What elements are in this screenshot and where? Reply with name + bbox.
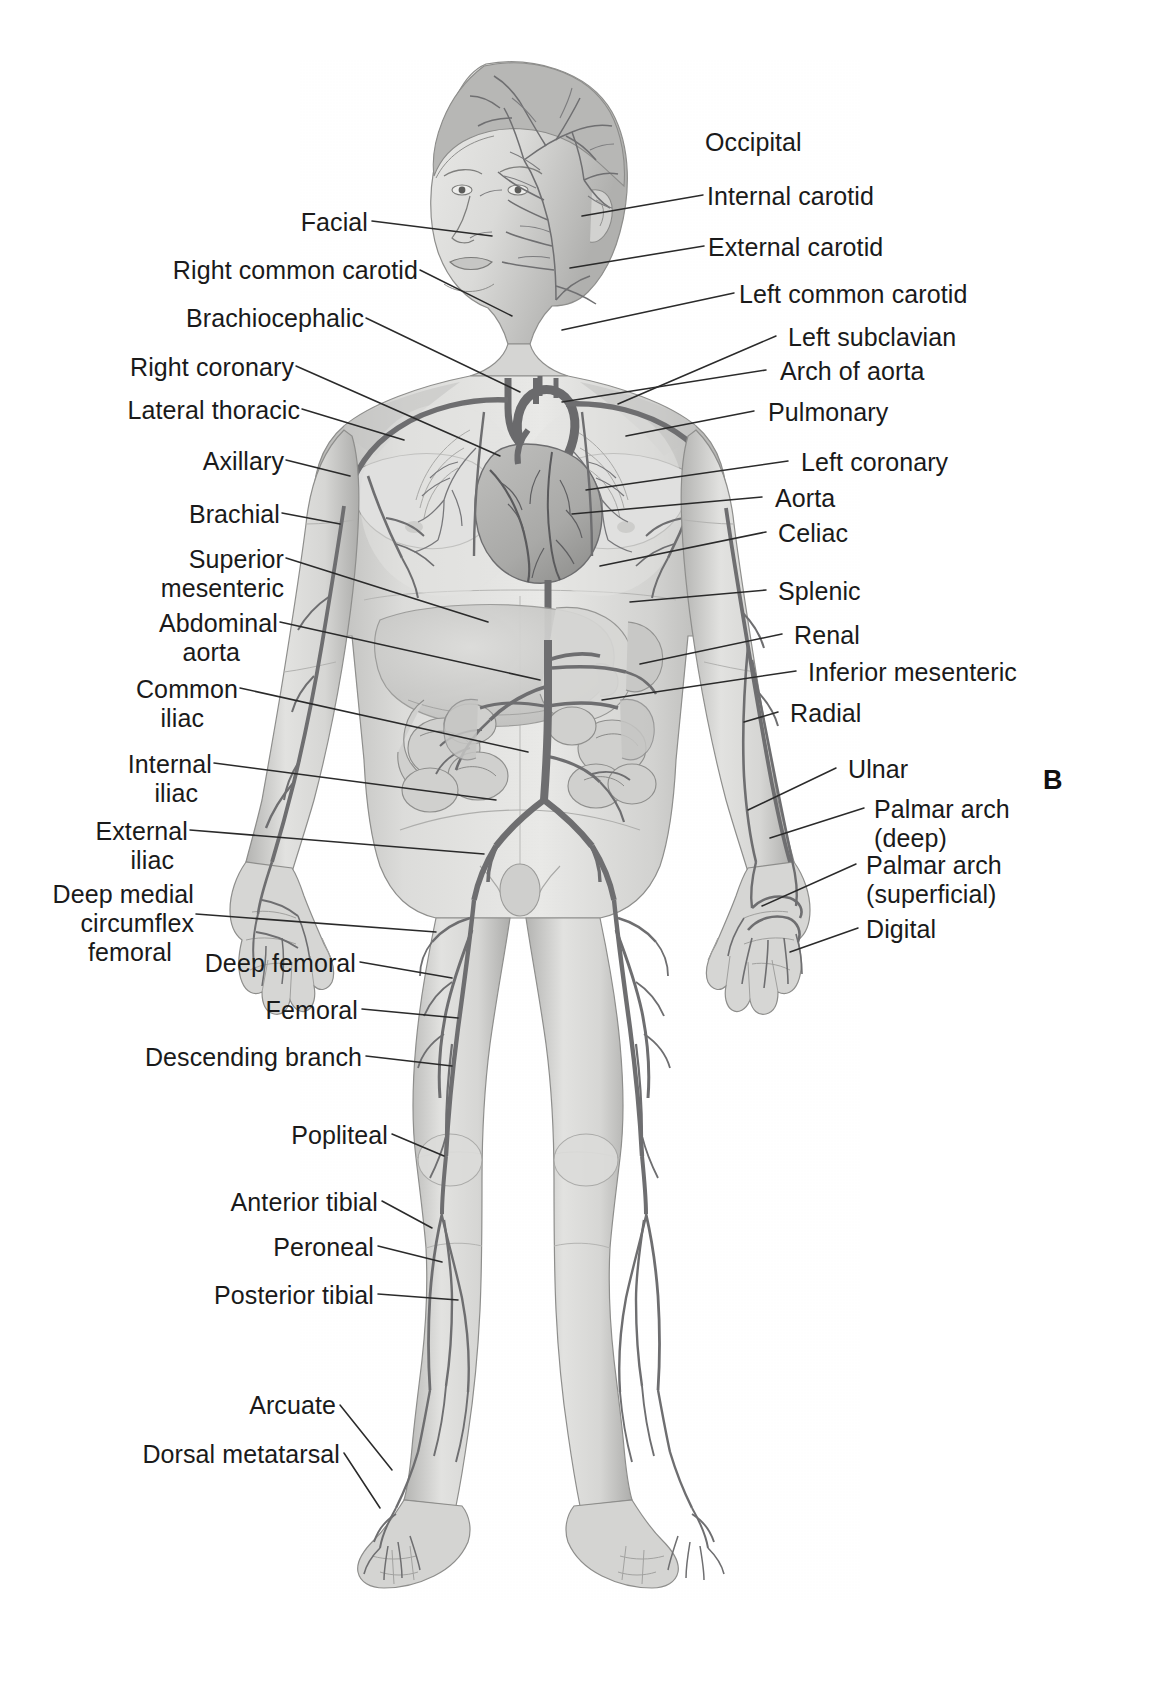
- leader-pulmonary: [626, 411, 754, 436]
- leader-left-common-carotid: [562, 293, 734, 330]
- label-text: Peroneal: [273, 1233, 374, 1261]
- label-text: Splenic: [778, 577, 861, 605]
- leader-arch-of-aorta: [562, 370, 766, 402]
- leader-right-common-carotid: [420, 270, 512, 316]
- leader-posterior-tibial: [378, 1294, 458, 1300]
- label-text: Left coronary: [801, 448, 948, 476]
- panel-letter-text: B: [1043, 765, 1063, 795]
- label-text: Descending branch: [145, 1043, 362, 1071]
- label-text: Brachiocephalic: [186, 304, 364, 332]
- label-left-coronary: Left coronary: [801, 448, 948, 477]
- label-occipital: Occipital: [705, 128, 802, 157]
- leader-splenic: [630, 590, 766, 602]
- label-lateral-thoracic: Lateral thoracic: [0, 396, 300, 425]
- leader-palmar-arch-deep: [770, 808, 864, 838]
- label-brachiocephalic: Brachiocephalic: [0, 304, 364, 333]
- label-left-subclavian: Left subclavian: [788, 323, 956, 352]
- label-text: Arch of aorta: [780, 357, 924, 385]
- label-right-common-carotid: Right common carotid: [0, 256, 418, 285]
- leader-brachiocephalic: [366, 318, 520, 392]
- leader-deep-femoral: [360, 962, 452, 978]
- label-dorsal-metatarsal: Dorsal metatarsal: [0, 1440, 340, 1469]
- label-text: Arcuate: [249, 1391, 336, 1419]
- leader-ulnar: [748, 768, 836, 810]
- label-text: Internal: [128, 750, 212, 778]
- leader-radial: [744, 712, 778, 722]
- label-text: Deep femoral: [205, 949, 356, 977]
- label-anterior-tibial: Anterior tibial: [0, 1188, 378, 1217]
- label-text: Lateral thoracic: [127, 396, 300, 424]
- label-text: Pulmonary: [768, 398, 888, 426]
- label-text: Abdominal: [159, 609, 278, 637]
- label-aorta: Aorta: [775, 484, 835, 513]
- label-pulmonary: Pulmonary: [768, 398, 888, 427]
- label-text: Dorsal metatarsal: [142, 1440, 340, 1468]
- label-text: Aorta: [775, 484, 835, 512]
- label-left-common-carotid: Left common carotid: [739, 280, 967, 309]
- label-text: Femoral: [266, 996, 358, 1024]
- label-celiac: Celiac: [778, 519, 848, 548]
- label-text: Occipital: [705, 128, 802, 156]
- label-text-line2: (deep): [874, 824, 1010, 853]
- label-text: Left common carotid: [739, 280, 967, 308]
- leader-arcuate: [340, 1405, 392, 1470]
- panel-letter-b: B: [1043, 765, 1063, 796]
- label-abdominal-aorta: Abdominal aorta: [0, 609, 278, 667]
- label-external-carotid: External carotid: [708, 233, 883, 262]
- label-text: Inferior mesenteric: [808, 658, 1017, 686]
- label-text: Facial: [301, 208, 368, 236]
- label-superior-mesenteric: Superior mesenteric: [0, 545, 284, 603]
- label-text: Axillary: [203, 447, 284, 475]
- label-palmar-arch-deep: Palmar arch (deep): [874, 795, 1010, 853]
- label-text-line2: aorta: [0, 638, 240, 667]
- label-text: Left subclavian: [788, 323, 956, 351]
- leader-right-coronary: [296, 366, 500, 456]
- label-digital: Digital: [866, 915, 936, 944]
- leader-abdominal-aorta: [280, 622, 540, 680]
- leader-internal-iliac: [214, 763, 496, 800]
- leader-left-coronary: [586, 461, 788, 490]
- label-arch-of-aorta: Arch of aorta: [780, 357, 924, 386]
- label-text: Anterior tibial: [231, 1188, 378, 1216]
- label-posterior-tibial: Posterior tibial: [0, 1281, 374, 1310]
- leader-digital: [790, 928, 858, 952]
- leader-common-iliac: [240, 688, 528, 752]
- label-text: Popliteal: [291, 1121, 388, 1149]
- label-text: Internal carotid: [707, 182, 874, 210]
- label-text: Deep medial: [53, 880, 194, 908]
- label-text-line2: (superficial): [866, 880, 1002, 909]
- label-internal-carotid: Internal carotid: [707, 182, 874, 211]
- label-text: Ulnar: [848, 755, 908, 783]
- label-text: External carotid: [708, 233, 883, 261]
- label-text: Superior: [189, 545, 284, 573]
- label-text: Posterior tibial: [214, 1281, 374, 1309]
- label-facial: Facial: [0, 208, 368, 237]
- label-peroneal: Peroneal: [0, 1233, 374, 1262]
- label-text: Palmar arch: [866, 851, 1002, 879]
- label-text-line2: circumflex: [0, 909, 194, 938]
- leader-inferior-mesenteric: [602, 671, 796, 700]
- label-splenic: Splenic: [778, 577, 861, 606]
- label-inferior-mesenteric: Inferior mesenteric: [808, 658, 1017, 687]
- label-external-iliac: External iliac: [0, 817, 188, 875]
- label-popliteal: Popliteal: [0, 1121, 388, 1150]
- label-deep-femoral: Deep femoral: [0, 949, 356, 978]
- leader-external-carotid: [570, 246, 704, 268]
- label-text: Right common carotid: [173, 256, 418, 284]
- label-ulnar: Ulnar: [848, 755, 908, 784]
- label-text: Brachial: [189, 500, 280, 528]
- leader-lateral-thoracic: [302, 409, 404, 440]
- label-palmar-arch-superficial: Palmar arch (superficial): [866, 851, 1002, 909]
- label-arcuate: Arcuate: [0, 1391, 336, 1420]
- label-radial: Radial: [790, 699, 861, 728]
- label-text: External: [95, 817, 188, 845]
- leader-renal: [640, 634, 782, 664]
- label-common-iliac: Common iliac: [0, 675, 238, 733]
- leader-anterior-tibial: [382, 1201, 432, 1228]
- leader-facial: [372, 221, 492, 236]
- label-text: Celiac: [778, 519, 848, 547]
- label-text: Palmar arch: [874, 795, 1010, 823]
- leader-axillary: [286, 460, 350, 476]
- label-text: Radial: [790, 699, 861, 727]
- leader-left-subclavian: [618, 336, 776, 404]
